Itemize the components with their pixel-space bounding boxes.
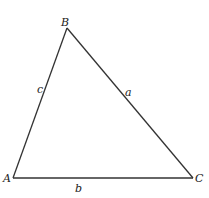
side-c	[13, 28, 67, 178]
vertex-label-a: A	[2, 172, 11, 185]
vertex-label-c: C	[195, 172, 204, 185]
side-label-c: c	[37, 83, 43, 96]
side-label-a: a	[125, 86, 132, 99]
side-a	[67, 28, 193, 178]
side-label-b: b	[75, 182, 82, 195]
vertex-label-b: B	[60, 16, 69, 29]
triangle-sides	[13, 28, 193, 178]
triangle-diagram: B A C a b c	[0, 0, 209, 198]
